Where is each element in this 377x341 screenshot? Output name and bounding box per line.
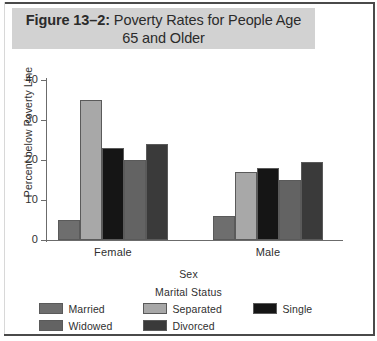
bar-female-married bbox=[58, 220, 80, 240]
legend-item-separated[interactable]: Separated bbox=[143, 303, 253, 315]
legend: Marital Status MarriedSeparatedSingleWid… bbox=[0, 286, 377, 334]
legend-swatch-divorced bbox=[143, 320, 167, 331]
legend-label-married: Married bbox=[69, 303, 105, 315]
legend-item-single[interactable]: Single bbox=[253, 303, 339, 315]
bar-male-single bbox=[257, 168, 279, 240]
bar-male-widowed bbox=[279, 180, 301, 240]
x-axis-line bbox=[46, 240, 343, 241]
bar-male-married bbox=[213, 216, 235, 240]
legend-swatch-married bbox=[39, 303, 63, 314]
legend-item-married[interactable]: Married bbox=[39, 303, 143, 315]
bar-male-divorced bbox=[301, 162, 323, 240]
bars-layer bbox=[46, 80, 343, 240]
legend-items: MarriedSeparatedSingleWidowedDivorced bbox=[39, 300, 339, 334]
bar-male-separated bbox=[235, 172, 257, 240]
figure-title-text: Poverty Rates for People Age 65 and Olde… bbox=[110, 12, 301, 46]
x-axis-title: Sex bbox=[0, 268, 377, 280]
legend-swatch-single bbox=[253, 303, 277, 314]
bar-female-separated bbox=[80, 100, 102, 240]
legend-item-divorced[interactable]: Divorced bbox=[143, 320, 253, 332]
y-tick-label-10: 10 bbox=[12, 193, 38, 205]
figure-container: Figure 13–2: Poverty Rates for People Ag… bbox=[0, 0, 377, 341]
figure-bottom-rule bbox=[4, 334, 375, 336]
legend-label-separated: Separated bbox=[173, 303, 222, 315]
figure-number: Figure 13–2: bbox=[26, 12, 110, 28]
figure-title: Figure 13–2: Poverty Rates for People Ag… bbox=[12, 11, 315, 47]
x-group-label-male: Male bbox=[228, 246, 308, 258]
bar-female-divorced bbox=[146, 144, 168, 240]
bar-female-widowed bbox=[124, 160, 146, 240]
legend-swatch-widowed bbox=[39, 320, 63, 331]
legend-swatch-separated bbox=[143, 303, 167, 314]
legend-label-widowed: Widowed bbox=[69, 320, 113, 332]
figure-top-rule bbox=[4, 2, 375, 4]
x-group-label-female: Female bbox=[73, 246, 153, 258]
y-tick-label-40: 40 bbox=[12, 73, 38, 85]
bar-female-single bbox=[102, 148, 124, 240]
y-tick-label-0: 0 bbox=[12, 233, 38, 245]
y-tick-label-30: 30 bbox=[12, 113, 38, 125]
legend-label-divorced: Divorced bbox=[173, 320, 215, 332]
legend-item-widowed[interactable]: Widowed bbox=[39, 320, 143, 332]
y-tick-label-20: 20 bbox=[12, 153, 38, 165]
figure-title-band: Figure 13–2: Poverty Rates for People Ag… bbox=[12, 8, 315, 49]
legend-title: Marital Status bbox=[0, 286, 377, 298]
legend-label-single: Single bbox=[283, 303, 313, 315]
